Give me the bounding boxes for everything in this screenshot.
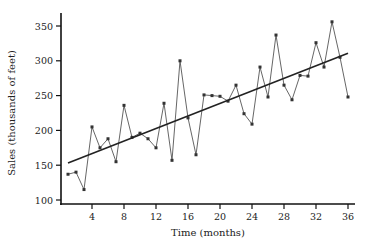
data-point-marker [179, 59, 182, 62]
data-point-marker [115, 160, 118, 163]
line-chart: 100150200250300350 4812162024283236 Time… [0, 0, 374, 246]
y-axis: 100150200250300350 [35, 13, 61, 206]
data-point-marker [307, 75, 310, 78]
y-tick-label: 350 [35, 21, 53, 32]
x-tick-label: 20 [214, 211, 226, 222]
data-point-marker [147, 137, 150, 140]
data-point-marker [259, 66, 262, 69]
data-point-marker [83, 188, 86, 191]
data-point-marker [251, 123, 254, 126]
data-point-marker [163, 102, 166, 105]
data-point-marker [243, 112, 246, 115]
y-tick-label: 150 [35, 160, 53, 171]
data-point-marker [299, 74, 302, 77]
data-point-marker [267, 95, 270, 98]
trend-line [68, 53, 348, 163]
data-point-marker [91, 125, 94, 128]
data-point-marker [347, 95, 350, 98]
x-axis: 4812162024283236 [60, 204, 355, 222]
y-tick-label: 200 [35, 125, 53, 136]
x-tick-label: 24 [246, 211, 258, 222]
data-point-marker [171, 159, 174, 162]
data-point-marker [203, 93, 206, 96]
y-tick-label: 300 [35, 55, 53, 66]
x-tick-label: 8 [121, 211, 127, 222]
data-point-marker [331, 20, 334, 23]
data-point-marker [235, 84, 238, 87]
x-axis-title: Time (months) [171, 227, 245, 238]
x-tick-label: 4 [89, 211, 95, 222]
x-tick-label: 16 [182, 211, 194, 222]
data-point-marker [283, 84, 286, 87]
x-tick-label: 32 [310, 211, 322, 222]
x-tick-label: 12 [150, 211, 162, 222]
data-point-marker [275, 34, 278, 37]
data-point-marker [75, 171, 78, 174]
data-point-marker [219, 95, 222, 98]
data-point-marker [323, 66, 326, 69]
data-point-marker [315, 41, 318, 44]
chart-container: 100150200250300350 4812162024283236 Time… [0, 0, 374, 246]
data-point-marker [67, 173, 70, 176]
data-point-marker [211, 94, 214, 97]
data-point-marker [291, 98, 294, 101]
data-point-marker [107, 137, 110, 140]
data-point-marker [195, 153, 198, 156]
data-point-marker [155, 146, 158, 149]
y-axis-title: Sales (thousands of feet) [6, 50, 17, 176]
y-tick-label: 250 [35, 90, 53, 101]
y-tick-label: 100 [35, 195, 53, 206]
plot-area [67, 20, 350, 191]
data-point-marker [99, 146, 102, 149]
x-tick-label: 36 [342, 211, 354, 222]
sales-line [68, 22, 348, 190]
data-point-marker [123, 104, 126, 107]
x-tick-label: 28 [278, 211, 290, 222]
